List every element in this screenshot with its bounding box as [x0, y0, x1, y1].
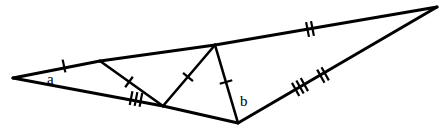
geometry-figure-container: a b: [0, 0, 448, 130]
tick-triple-bottom-left-stroke: [130, 91, 133, 105]
angle-label-a: a: [47, 71, 54, 87]
edge-e-to-c: [163, 106, 238, 123]
cevian-f-to-c: [215, 45, 238, 123]
segments-group: [13, 7, 437, 123]
tick-single-top-left-stroke: [63, 60, 66, 73]
edge-d-to-f: [100, 45, 215, 61]
tick-triple-bottom-left-stroke: [140, 93, 143, 107]
tick-triple-bottom-left-stroke: [135, 92, 138, 106]
cevian-e-to-f: [163, 45, 215, 106]
tick-double-top-right-stroke: [306, 22, 309, 37]
tick-double-top-right-stroke: [311, 21, 314, 36]
edge-a-to-d: [13, 61, 100, 78]
tick-single-top-left: [63, 60, 66, 73]
tick-triple-bottom-right: [292, 78, 308, 96]
geometry-diagram: a b: [0, 0, 448, 130]
tick-triple-bottom-left: [130, 91, 142, 107]
angle-label-b: b: [240, 93, 248, 109]
